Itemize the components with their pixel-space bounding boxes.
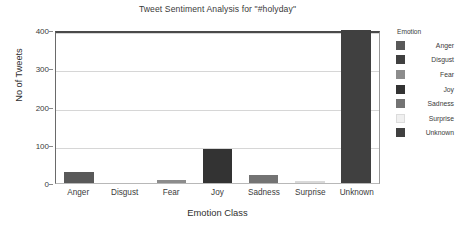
legend-swatch-icon: [396, 114, 405, 123]
bar-fear: [157, 180, 187, 183]
legend-swatch-icon: [396, 41, 405, 50]
bar-slot: [333, 33, 379, 183]
legend-item-unknown[interactable]: Unknown: [396, 126, 455, 141]
y-tick-label: 300: [17, 65, 49, 74]
legend-item-anger[interactable]: Anger: [396, 38, 455, 53]
legend-item-fear[interactable]: Fear: [396, 67, 455, 82]
y-tick-label: 0: [17, 180, 49, 189]
y-tick-label: 100: [17, 141, 49, 150]
y-tick-label: 200: [17, 103, 49, 112]
legend-swatch-icon: [396, 55, 405, 64]
x-axis-label: Emotion Class: [55, 207, 380, 218]
bar-joy: [203, 149, 233, 183]
x-tick-label: Surprise: [287, 188, 333, 197]
bar-slot: [102, 33, 148, 183]
y-tick-mark: [49, 69, 53, 70]
bar-slot: [241, 33, 287, 183]
y-tick-mark: [49, 31, 53, 32]
x-tick-label: Fear: [148, 188, 194, 197]
legend-swatch-icon: [396, 128, 405, 137]
legend-items: AngerDisgustFearJoySadnessSurpriseUnknow…: [396, 38, 455, 140]
chart-figure: Tweet Sentiment Analysis for "#holyday" …: [0, 0, 455, 233]
legend-item-joy[interactable]: Joy: [396, 82, 455, 97]
bar-anger: [64, 172, 94, 183]
legend-label: Disgust: [405, 56, 455, 63]
bar-slot: [287, 33, 333, 183]
y-tick-mark: [49, 146, 53, 147]
bar-series: [56, 33, 379, 183]
x-tick-label: Disgust: [101, 188, 147, 197]
legend: Emotion AngerDisgustFearJoySadnessSurpri…: [396, 28, 455, 140]
legend-label: Fear: [405, 71, 455, 78]
legend-label: Unknown: [405, 129, 455, 136]
y-tick-mark: [49, 184, 53, 185]
x-tick-label: Unknown: [334, 188, 380, 197]
x-tick-label: Anger: [55, 188, 101, 197]
x-axis-ticks: AngerDisgustFearJoySadnessSurpriseUnknow…: [55, 188, 380, 202]
legend-label: Anger: [405, 42, 455, 49]
legend-item-disgust[interactable]: Disgust: [396, 53, 455, 68]
bar-slot: [56, 33, 102, 183]
bar-sadness: [249, 175, 279, 183]
bar-slot: [194, 33, 240, 183]
plot-area: [55, 31, 380, 184]
legend-label: Joy: [405, 86, 455, 93]
legend-swatch-icon: [396, 85, 405, 94]
y-tick-label: 400: [17, 27, 49, 36]
y-axis-ticks: 0100200300400: [8, 31, 49, 184]
legend-title: Emotion: [396, 28, 455, 35]
legend-swatch-icon: [396, 70, 405, 79]
bar-unknown: [341, 30, 371, 183]
x-tick-label: Joy: [194, 188, 240, 197]
chart-title: Tweet Sentiment Analysis for "#holyday": [55, 4, 380, 14]
legend-item-sadness[interactable]: Sadness: [396, 96, 455, 111]
legend-label: Sadness: [405, 100, 455, 107]
legend-label: Surprise: [405, 115, 455, 122]
x-tick-label: Sadness: [241, 188, 287, 197]
bar-surprise: [295, 181, 325, 183]
y-tick-mark: [49, 108, 53, 109]
legend-swatch-icon: [396, 99, 405, 108]
legend-item-surprise[interactable]: Surprise: [396, 111, 455, 126]
bar-slot: [148, 33, 194, 183]
